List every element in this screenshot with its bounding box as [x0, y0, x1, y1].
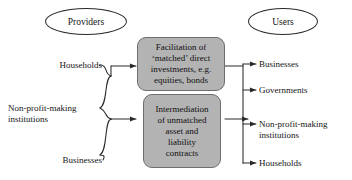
- process-box-intermediation: Intermediation of unmatched asset and li…: [143, 94, 221, 168]
- group-ellipse-providers: Providers: [45, 8, 127, 35]
- provider-label-nonprofit-institutions: Non-profit-making institutions: [8, 103, 104, 124]
- user-label-nonprofit-institutions: Non-profit-making institutions: [259, 119, 351, 140]
- brace-lower-arc: [100, 119, 111, 155]
- group-label-providers: Providers: [68, 17, 104, 27]
- provider-label-businesses: Businesses: [32, 155, 102, 166]
- financial-intermediation-diagram: Providers Users Households Non-profit-ma…: [0, 0, 352, 180]
- user-label-businesses: Businesses: [259, 59, 349, 70]
- user-label-governments: Governments: [259, 85, 349, 96]
- provider-label-households: Households: [32, 60, 102, 71]
- process-box-facilitation: Facilitation of ‘matched’ direct investm…: [137, 37, 225, 91]
- user-label-households: Households: [259, 158, 349, 169]
- group-ellipse-users: Users: [248, 8, 318, 35]
- group-label-users: Users: [272, 17, 294, 27]
